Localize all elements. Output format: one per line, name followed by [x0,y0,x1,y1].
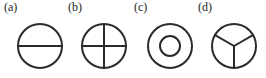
panel-a-label: (a) [4,1,17,14]
panel-b-diagram [64,17,130,77]
divider-radius-upper-right-d [234,35,254,46]
panel-b-label: (b) [68,1,82,14]
panel-d: (d) [194,0,260,78]
inner-circle-c [160,36,180,56]
panel-c-label: (c) [134,1,147,14]
divider-radius-upper-left-d [214,35,234,46]
panel-c-diagram [130,17,196,77]
figure-panel-group: (a) (b) (c) (d) [0,0,266,78]
panel-a-diagram [0,17,66,77]
panel-d-diagram [194,17,260,77]
panel-b: (b) [64,0,130,78]
panel-d-label: (d) [198,1,212,14]
panel-c: (c) [130,0,196,78]
panel-a: (a) [0,0,66,78]
circle-outline-c [148,24,192,68]
